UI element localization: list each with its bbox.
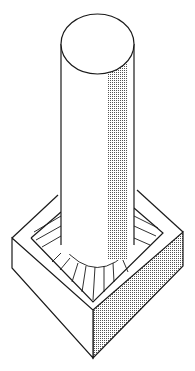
cylinder-shading xyxy=(108,60,128,260)
isometric-drawing xyxy=(0,0,195,371)
cylinder-top-ellipse xyxy=(61,14,134,74)
